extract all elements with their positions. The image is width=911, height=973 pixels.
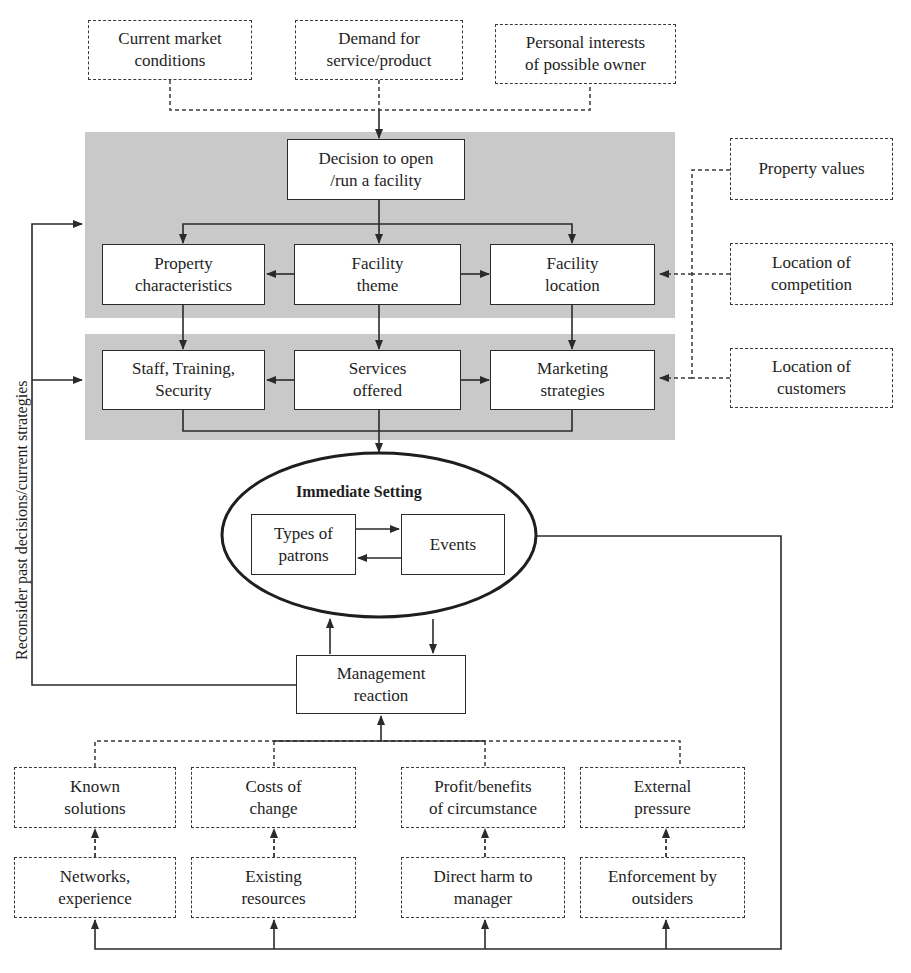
input-location-customers: Location of customers (730, 348, 893, 408)
input-personal-interests: Personal interests of possible owner (495, 24, 676, 84)
services-offered-box: Services offered (294, 350, 461, 410)
facility-location-box: Facility location (490, 244, 655, 305)
factor-existing-resources: Existing resources (191, 857, 356, 918)
types-of-patrons-box: Types of patrons (251, 514, 356, 575)
property-characteristics-box: Property characteristics (102, 244, 265, 305)
factor-known-solutions: Known solutions (14, 767, 176, 828)
factor-external-pressure: External pressure (580, 767, 745, 828)
staff-training-security-box: Staff, Training, Security (102, 350, 265, 410)
marketing-strategies-box: Marketing strategies (490, 350, 655, 410)
decision-box: Decision to open /run a facility (287, 139, 465, 200)
feedback-label: Reconsider past decisions/current strate… (13, 381, 31, 660)
factor-profit-benefits: Profit/benefits of circumstance (401, 767, 565, 828)
input-location-competition: Location of competition (730, 243, 893, 305)
events-box: Events (401, 514, 505, 575)
factor-direct-harm: Direct harm to manager (401, 857, 565, 918)
management-reaction-box: Management reaction (296, 655, 466, 714)
input-market-conditions: Current market conditions (88, 20, 252, 80)
immediate-setting-title: Immediate Setting (296, 483, 422, 501)
factor-networks-experience: Networks, experience (14, 857, 176, 918)
factor-enforcement-outsiders: Enforcement by outsiders (580, 857, 745, 918)
input-demand: Demand for service/product (295, 20, 463, 80)
facility-theme-box: Facility theme (294, 244, 461, 305)
input-property-values: Property values (730, 138, 893, 200)
factor-costs-of-change: Costs of change (191, 767, 356, 828)
